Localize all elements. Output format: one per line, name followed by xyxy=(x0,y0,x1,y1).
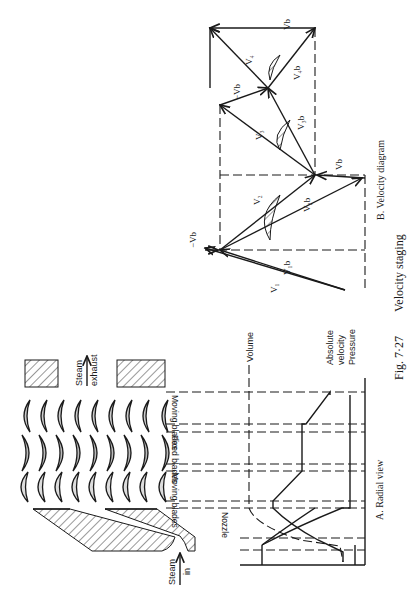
exhaust-casing-top xyxy=(25,360,58,387)
figure-caption-text: Velocity staging xyxy=(392,234,406,312)
figure-canvas: Steam exhaust xyxy=(0,0,415,607)
panel-a-title: A. Radial view xyxy=(374,459,385,520)
label-v1b: V₁b xyxy=(282,260,292,275)
inlet-label-line1: Steam xyxy=(167,559,177,585)
section-boundaries xyxy=(166,392,365,550)
vector-v4 xyxy=(210,28,268,88)
blade-shading-3 xyxy=(269,55,280,80)
vector-v3 xyxy=(220,105,315,175)
pressure-curve xyxy=(262,395,350,545)
fixed-blades-row xyxy=(22,435,169,471)
curve-label-volume: Volume xyxy=(245,332,255,362)
absolute-velocity-curve xyxy=(273,392,343,562)
vector-neg-vb-2 xyxy=(220,88,268,105)
section-label-moving-blades-1: Moving blades xyxy=(170,473,180,528)
panel-b-title: B. Velocity diagram xyxy=(375,140,386,220)
vector-v2b xyxy=(220,178,362,250)
label-neg-vb-2: −Vb xyxy=(232,83,242,100)
label-v4b: V₄b xyxy=(292,65,302,80)
curve-label-pressure: Pressure xyxy=(347,329,357,365)
blade-shading-1 xyxy=(264,195,280,240)
label-v4: V₄ xyxy=(244,55,254,65)
blade-shading-2 xyxy=(277,120,290,150)
label-v3: V₃ xyxy=(254,130,264,140)
label-v2b: V₂b xyxy=(302,197,312,212)
absolute-velocity-nozzle-segment xyxy=(262,508,315,545)
curve-label-velocity-1: Absolute xyxy=(325,330,335,365)
steam-in-label: Steam in xyxy=(167,553,192,585)
panel-b-velocity-diagram: V₁ V₁b −Vb V₂ V₂b Vb V₃ V₃b −Vb V₄ V₄b V… xyxy=(188,19,386,293)
exhaust-casing-bottom xyxy=(117,360,165,387)
curve-label-velocity-2: velocity xyxy=(336,334,346,365)
figure-caption: Fig. 7·27 Velocity staging xyxy=(392,234,406,380)
label-v2: V₂ xyxy=(252,195,262,205)
label-v3b: V₃b xyxy=(296,115,306,130)
inlet-label-line2: in xyxy=(182,568,192,575)
moving-blades-row-2 xyxy=(24,400,168,432)
exhaust-label-line2: exhaust xyxy=(89,354,99,386)
label-vb-2: Vb xyxy=(282,19,292,30)
section-label-nozzle: Nozzle xyxy=(220,512,230,538)
exhaust-label-line1: Steam xyxy=(74,360,84,386)
steam-exhaust-label: Steam exhaust xyxy=(74,354,99,386)
label-v1: V₁ xyxy=(269,283,279,293)
label-vb-1: Vb xyxy=(334,159,344,170)
vector-v3b xyxy=(268,88,315,175)
moving-blades-row-1 xyxy=(21,472,166,502)
label-neg-vb-1: −Vb xyxy=(188,231,198,248)
panel-a-radial-view: Steam exhaust xyxy=(21,329,385,585)
figure-number: Fig. 7·27 xyxy=(392,336,406,380)
